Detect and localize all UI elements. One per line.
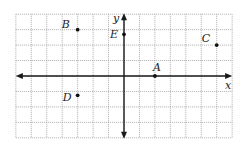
point-label-e: E — [109, 28, 118, 41]
x-axis-left-arrow-icon — [16, 73, 23, 79]
y-axis-label: y — [112, 12, 120, 25]
point-label-d: D — [62, 91, 72, 104]
point-e — [122, 32, 126, 36]
point-label-a: A — [152, 61, 161, 74]
axes — [16, 13, 232, 139]
x-axis-label: x — [225, 79, 232, 92]
point-c — [215, 43, 219, 47]
point-label-c: C — [202, 32, 211, 45]
point-label-b: B — [61, 18, 70, 31]
point-b — [76, 28, 80, 32]
point-a — [153, 74, 157, 78]
coordinate-plane: x y ABCDE — [0, 0, 243, 152]
point-d — [76, 93, 80, 97]
